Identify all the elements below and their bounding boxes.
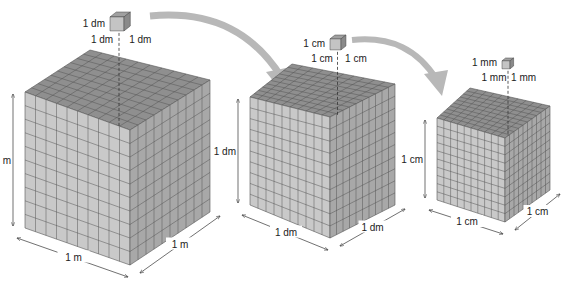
unit-cube (502, 58, 514, 69)
unit-depth-label: 1 mm (511, 72, 536, 83)
height-label: 1 m (0, 155, 11, 166)
unit-height-label: 1 mm (472, 57, 497, 68)
meter-cube (25, 50, 210, 265)
unit-depth-label: 1 cm (345, 53, 367, 64)
height-label: 1 dm (214, 146, 236, 157)
unit-height-label: 1 dm (83, 18, 105, 29)
depth-label: 1 dm (361, 222, 383, 233)
unit-depth-label: 1 dm (129, 34, 151, 45)
width-label: 1 m (65, 252, 82, 263)
decimeter-cube (250, 64, 395, 238)
unit-cube (110, 12, 130, 31)
metric-cubes-diagram: 1 dm1 dm1 dm1 m1 m1 m1 cm1 cm1 cm1 dm1 d… (0, 0, 570, 282)
depth-label: 1 m (172, 239, 189, 250)
depth-label: 1 cm (527, 206, 549, 217)
unit-cube (330, 35, 346, 50)
unit-width-label: 1 cm (311, 53, 333, 64)
centimeter-cube (437, 88, 550, 222)
unit-width-label: 1 mm (482, 72, 507, 83)
width-label: 1 cm (456, 216, 478, 227)
width-label: 1 dm (275, 227, 297, 238)
unit-width-label: 1 dm (91, 34, 113, 45)
unit-height-label: 1 cm (303, 38, 325, 49)
height-label: 1 cm (401, 154, 423, 165)
